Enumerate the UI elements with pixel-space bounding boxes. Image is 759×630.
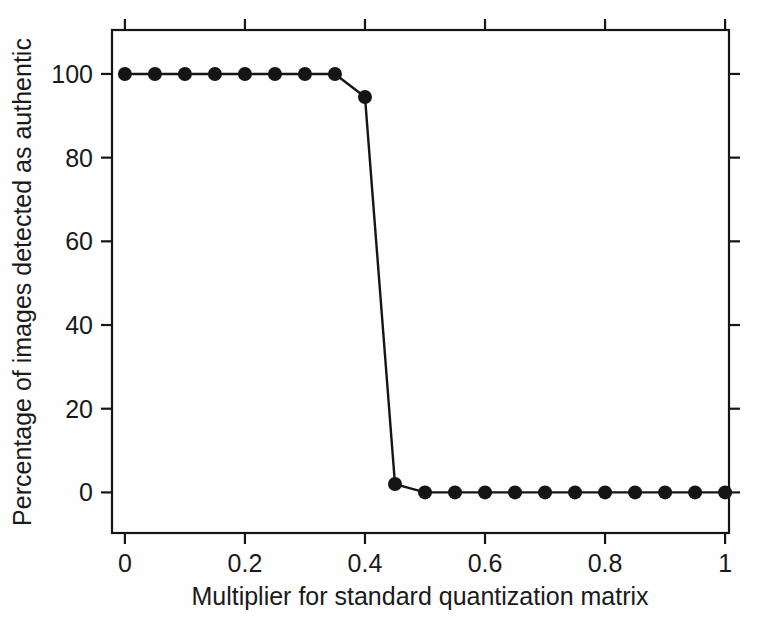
data-point-marker (538, 485, 552, 499)
data-point-marker (418, 485, 432, 499)
x-tick-label: 0.6 (468, 549, 503, 577)
figure-page: 00.20.40.60.81 020406080100 Multiplier f… (0, 0, 759, 630)
data-point-marker (268, 67, 282, 81)
data-point-marker (208, 67, 222, 81)
x-tick-label: 0.8 (588, 549, 623, 577)
x-tick-label: 1 (718, 549, 732, 577)
data-point-marker (478, 485, 492, 499)
data-point-marker (448, 485, 462, 499)
x-axis-title: Multiplier for standard quantization mat… (191, 582, 649, 610)
data-point-marker (298, 67, 312, 81)
data-point-marker (148, 67, 162, 81)
y-tick-labels: 020406080100 (51, 60, 93, 506)
data-point-marker (388, 477, 402, 491)
plot-frame (112, 30, 729, 533)
y-axis-title: Percentage of images detected as authent… (8, 38, 36, 526)
data-point-marker (358, 90, 372, 104)
y-tick-label: 60 (65, 227, 93, 255)
y-tick-label: 100 (51, 60, 93, 88)
series-markers (118, 67, 732, 499)
data-point-marker (328, 67, 342, 81)
x-tick-label: 0.2 (228, 549, 263, 577)
line-chart: 00.20.40.60.81 020406080100 Multiplier f… (0, 0, 759, 630)
data-point-marker (628, 485, 642, 499)
x-tick-label: 0.4 (348, 549, 383, 577)
y-tick-label: 0 (79, 478, 93, 506)
data-point-marker (658, 485, 672, 499)
y-tick-label: 40 (65, 311, 93, 339)
series-line (125, 74, 725, 492)
x-tick-labels: 00.20.40.60.81 (118, 549, 732, 577)
data-point-marker (238, 67, 252, 81)
data-point-marker (508, 485, 522, 499)
y-tick-label: 20 (65, 395, 93, 423)
data-point-marker (568, 485, 582, 499)
data-point-marker (598, 485, 612, 499)
data-point-marker (178, 67, 192, 81)
data-point-marker (688, 485, 702, 499)
x-tick-label: 0 (118, 549, 132, 577)
data-point-marker (718, 485, 732, 499)
data-point-marker (118, 67, 132, 81)
axis-ticks (101, 19, 740, 544)
y-tick-label: 80 (65, 144, 93, 172)
